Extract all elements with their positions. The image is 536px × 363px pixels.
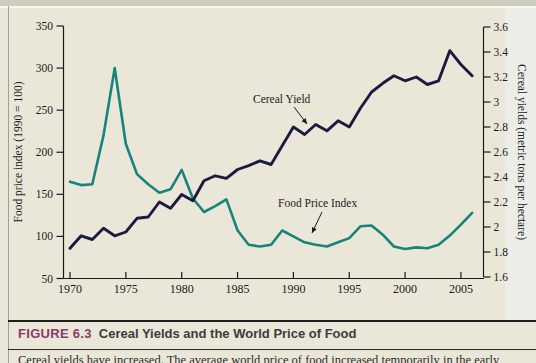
right-axis-tick-label: 3 — [494, 96, 500, 108]
right-axis-title: Cereal yields (metric tons per hectare) — [515, 64, 528, 240]
right-axis-tick-label: 2.2 — [494, 196, 509, 208]
textbook-figure-page: 35030025020015010050Food price index (19… — [0, 0, 536, 363]
caption-bottom-rule — [8, 349, 536, 350]
x-axis-tick-label: 1995 — [337, 282, 361, 296]
right-axis-tick-label: 2.8 — [494, 121, 509, 133]
x-axis-tick-label: 1990 — [281, 282, 305, 296]
x-axis-tick-label: 2000 — [393, 282, 417, 296]
annotation-label: Cereal Yield — [253, 93, 311, 105]
x-axis-tick-label: 2005 — [449, 282, 473, 296]
right-axis-tick-label: 3.6 — [494, 21, 509, 33]
caption-top-rule — [8, 320, 536, 322]
series-line-cereal-yield — [70, 51, 472, 249]
left-axis-tick-label: 300 — [36, 62, 54, 74]
right-axis-tick-label: 1.8 — [494, 246, 509, 258]
right-axis-tick-label: 1.6 — [494, 271, 509, 283]
x-axis-tick-label: 1970 — [58, 282, 82, 296]
annotation-label: Food Price Index — [278, 197, 357, 209]
figure-title: Cereal Yields and the World Price of Foo… — [99, 326, 357, 341]
left-axis-tick-label: 250 — [36, 104, 54, 116]
left-axis-tick-label: 200 — [36, 146, 54, 158]
x-axis-tick-label: 1985 — [226, 282, 250, 296]
figure-caption: FIGURE 6.3Cereal Yields and the World Pr… — [18, 326, 528, 346]
x-axis-tick-label: 1980 — [170, 282, 194, 296]
figure-body-text-clipped: Cereal yields have increased. The averag… — [18, 353, 523, 363]
left-axis-tick-label: 100 — [36, 230, 54, 242]
x-axis-tick-label: 1975 — [114, 282, 138, 296]
right-axis-tick-label: 3.2 — [494, 71, 509, 83]
left-axis-tick-label: 350 — [36, 20, 54, 32]
figure-number: FIGURE 6.3 — [18, 326, 92, 341]
annotation-arrowhead — [302, 118, 307, 124]
left-axis-title: Food price index (1990 = 100) — [12, 81, 25, 222]
right-axis-tick-label: 3.4 — [494, 46, 509, 58]
right-axis-tick-label: 2.6 — [494, 146, 509, 158]
left-axis-tick-label: 150 — [36, 188, 54, 200]
left-axis-tick-label: 50 — [42, 273, 54, 285]
cereal-yields-food-price-chart: 35030025020015010050Food price index (19… — [0, 0, 536, 320]
right-axis-tick-label: 2 — [494, 221, 500, 233]
right-axis-tick-label: 2.4 — [494, 171, 509, 183]
